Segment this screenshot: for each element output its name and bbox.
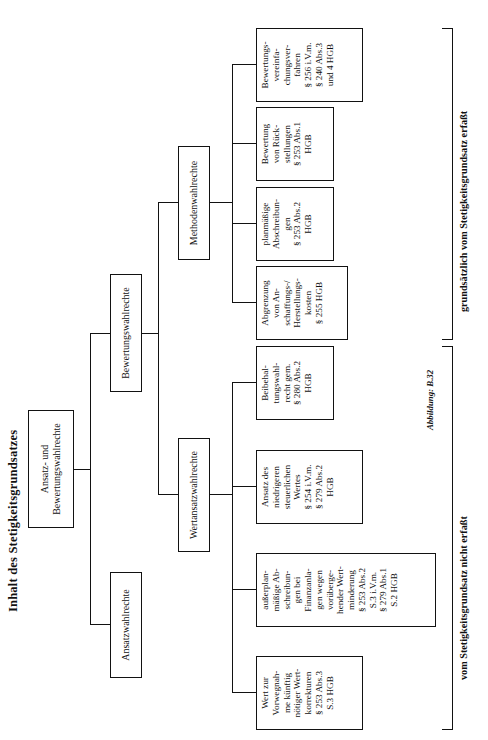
brace-erfasst-label: grundsätzlich vom Stetigkeitsgrundsatz e… — [458, 111, 469, 312]
connector-to-bewertungswahlrechte — [90, 333, 110, 334]
connector-wertansatz-bus — [232, 382, 233, 693]
connector-methoden-drop-6 — [232, 223, 256, 224]
connector-to-methodenwahlrechte — [158, 202, 178, 203]
leaf-beibehaltungswahlrecht-label: Beibehal- tungswahl- recht gem. § 280 Ab… — [260, 350, 314, 416]
node-wertansatzwahlrechte: Wertansatzwahlrechte — [178, 438, 210, 552]
node-ansatzwahlrechte-label: Ansatzwahlrechte — [120, 576, 132, 674]
node-ansatzwahlrechte: Ansatzwahlrechte — [110, 572, 142, 678]
connector-methoden-drop-5 — [232, 302, 256, 303]
leaf-planmaessige-abschreibungen: planmäßige Abschreibun- gen § 253 Abs.2 … — [256, 187, 334, 261]
leaf-bewertung-rueckstellungen: Bewertung von Rück- stellungen § 253 Abs… — [256, 107, 334, 181]
connector-methoden-drop-8 — [232, 64, 256, 65]
brace-nicht-erfasst-left-tick — [442, 729, 452, 730]
brace-erfasst-bar — [452, 28, 453, 340]
node-wertansatzwahlrechte-label: Wertansatzwahlrechte — [188, 442, 200, 548]
connector-wertansatz-drop-2 — [232, 589, 256, 590]
connector-methoden-bus — [232, 64, 233, 303]
leaf-ausserplanmaessige-abschreibungen: außerplan- mäßige Ab- schreibun- gen bei… — [256, 553, 436, 627]
brace-erfasst-left-tick — [442, 339, 452, 340]
connector-bw-stem — [142, 333, 158, 334]
leaf-niedrigerer-steuerlicher-wert: Ansatz des niedrigeren steuerlichen Wert… — [256, 450, 363, 524]
leaf-bewertung-rueckstellungen-label: Bewertung von Rück- stellungen § 253 Abs… — [260, 111, 314, 177]
leaf-bewertungsvereinfachung: Bewertungs- vereinfa- chungsver- fahren … — [256, 28, 363, 102]
node-bewertungswahlrechte: Bewertungswahlrechte — [110, 274, 142, 392]
connector-root-bus — [90, 333, 91, 625]
leaf-wert-vorwegnahme-label: Wert zur Vorwegnah- me künftig nötiger W… — [260, 660, 335, 726]
leaf-wert-vorwegnahme: Wert zur Vorwegnah- me künftig nötiger W… — [256, 656, 363, 730]
leaf-abgrenzung-ahk-label: Abgrenzung von An- schaffungs-/ Herstell… — [260, 270, 325, 336]
connector-to-ansatzwahlrechte — [90, 624, 110, 625]
connector-wertansatz-drop-3 — [232, 486, 256, 487]
figure-title: Inhalt des Stetigkeitsgrundsatzes — [6, 430, 21, 612]
connector-root-stem — [74, 469, 90, 470]
leaf-niedrigerer-steuerlicher-wert-label: Ansatz des niedrigeren steuerlichen Wert… — [260, 454, 335, 520]
connector-wertansatz-stem — [210, 494, 232, 495]
connector-bw-bus — [158, 202, 159, 495]
node-bewertungswahlrechte-label: Bewertungswahlrechte — [120, 278, 132, 388]
connector-wertansatz-drop-1 — [232, 692, 256, 693]
leaf-ausserplanmaessige-abschreibungen-label: außerplan- mäßige Ab- schreibun- gen bei… — [260, 557, 400, 623]
brace-nicht-erfasst-label: vom Stetigkeitsgrundsatz nicht erfaßt — [458, 516, 469, 680]
leaf-planmaessige-abschreibungen-label: planmäßige Abschreibun- gen § 253 Abs.2 … — [260, 191, 314, 257]
brace-nicht-erfasst-bar — [452, 346, 453, 730]
leaf-bewertungsvereinfachung-label: Bewertungs- vereinfa- chungsver- fahren … — [260, 32, 335, 98]
node-root: Ansatz- und Bewertungswahlrechte — [28, 410, 74, 528]
connector-wertansatz-drop-4 — [232, 382, 256, 383]
node-root-label: Ansatz- und Bewertungswahlrechte — [39, 414, 62, 524]
connector-methoden-stem — [210, 202, 232, 203]
brace-nicht-erfasst-right-tick — [442, 346, 452, 347]
connector-to-wertansatzwahlrechte — [158, 494, 178, 495]
node-methodenwahlrechte-label: Methodenwahlrechte — [188, 150, 200, 256]
figure-canvas: Inhalt des Stetigkeitsgrundsatzes Ansatz… — [0, 0, 488, 740]
connector-methoden-drop-7 — [232, 143, 256, 144]
leaf-abgrenzung-ahk: Abgrenzung von An- schaffungs-/ Herstell… — [256, 266, 348, 340]
leaf-beibehaltungswahlrecht: Beibehal- tungswahl- recht gem. § 280 Ab… — [256, 346, 334, 420]
brace-erfasst-right-tick — [442, 28, 452, 29]
node-methodenwahlrechte: Methodenwahlrechte — [178, 146, 210, 260]
figure-source-caption: Abbildung: B.32 — [425, 370, 435, 430]
